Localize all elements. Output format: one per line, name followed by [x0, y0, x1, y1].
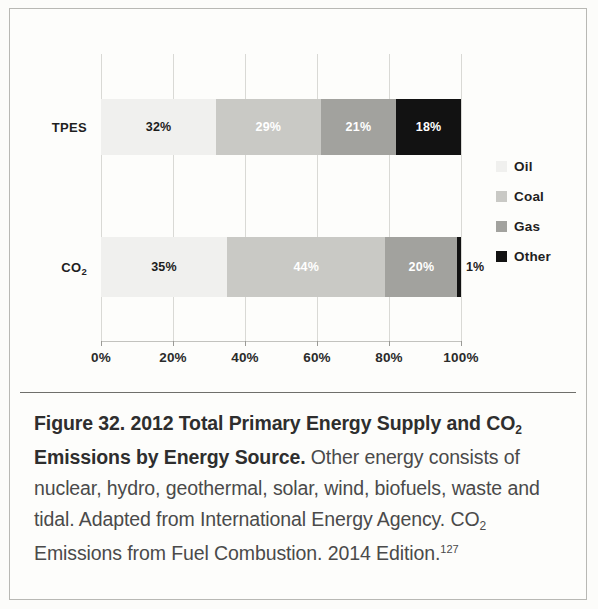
bar-label-tpes-coal: 29%: [216, 120, 320, 134]
x-tick-label-40: 40%: [215, 350, 275, 365]
legend-label-gas: Gas: [514, 219, 540, 234]
tick-mark-80: [389, 341, 390, 346]
legend-label-oil: Oil: [514, 159, 533, 174]
tick-mark-60: [317, 341, 318, 346]
bar-label-tpes-gas: 21%: [321, 120, 397, 134]
x-tick-label-100: 100%: [431, 350, 491, 365]
gridline-60: [317, 54, 318, 341]
legend-label-other: Other: [514, 249, 551, 264]
category-label-co2-text: CO: [61, 260, 81, 275]
legend-item-other[interactable]: Other: [496, 241, 580, 271]
caption-body-part2: Emissions from Fuel Combustion. 2014 Edi…: [34, 542, 440, 564]
legend-item-gas[interactable]: Gas: [496, 211, 580, 241]
tick-mark-40: [245, 341, 246, 346]
chart-legend: Oil Coal Gas Other: [496, 151, 580, 271]
bar-segment-co2-oil[interactable]: 35%: [101, 237, 227, 297]
bar-segment-co2-coal[interactable]: 44%: [227, 237, 385, 297]
gridline-0: [101, 54, 102, 341]
bar-segment-co2-gas[interactable]: 20%: [385, 237, 457, 297]
legend-item-coal[interactable]: Coal: [496, 181, 580, 211]
legend-swatch-other-icon: [496, 251, 507, 262]
caption-divider: [20, 392, 576, 393]
caption-bold-line2-rest: Emissions by Energy Source.: [34, 446, 305, 468]
bar-row-tpes: TPES 32% 29% 21% 18%: [101, 99, 461, 155]
gridline-40: [245, 54, 246, 341]
x-tick-label-0: 0%: [71, 350, 131, 365]
bar-label-tpes-other: 18%: [396, 120, 461, 134]
bar-label-co2-oil: 35%: [101, 260, 227, 274]
x-tick-label-60: 60%: [287, 350, 347, 365]
gridline-100: [461, 54, 462, 341]
plot-area: 0% 20% 40% 60% 80% 100% TPES 32% 29%: [101, 54, 461, 341]
gridline-80: [389, 54, 390, 341]
caption-footnote-marker: 127: [440, 543, 458, 555]
caption-bold-line1: Figure 32. 2012 Total Primary Energy Sup…: [34, 412, 481, 434]
gridline-20: [173, 54, 174, 341]
bar-segment-tpes-gas[interactable]: 21%: [321, 99, 397, 155]
x-tick-label-80: 80%: [359, 350, 419, 365]
figure-frame: 0% 20% 40% 60% 80% 100% TPES 32% 29%: [9, 8, 587, 600]
chart-panel: 0% 20% 40% 60% 80% 100% TPES 32% 29%: [10, 9, 586, 391]
figure-page: 0% 20% 40% 60% 80% 100% TPES 32% 29%: [0, 0, 598, 609]
x-axis-line: [101, 341, 462, 342]
figure-caption: Figure 32. 2012 Total Primary Energy Sup…: [34, 408, 559, 572]
tick-mark-0: [101, 341, 102, 346]
legend-swatch-coal-icon: [496, 191, 507, 202]
tick-mark-100: [461, 341, 462, 346]
legend-label-coal: Coal: [514, 189, 544, 204]
category-label-co2-subscript: 2: [81, 266, 87, 277]
bar-label-co2-gas: 20%: [385, 260, 457, 274]
bar-segment-tpes-coal[interactable]: 29%: [216, 99, 320, 155]
caption-bold-co2-subscript: 2: [515, 423, 522, 437]
legend-item-oil[interactable]: Oil: [496, 151, 580, 181]
caption-bold-co2-base: CO: [486, 412, 515, 434]
category-label-tpes: TPES: [7, 120, 87, 135]
bar-label-tpes-oil: 32%: [101, 120, 216, 134]
legend-swatch-oil-icon: [496, 161, 507, 172]
bar-label-co2-coal: 44%: [227, 260, 385, 274]
bar-segment-co2-other[interactable]: 1%: [457, 237, 461, 297]
category-label-tpes-text: TPES: [52, 120, 87, 135]
bar-segment-tpes-other[interactable]: 18%: [396, 99, 461, 155]
bar-label-co2-other: 1%: [461, 260, 484, 274]
tick-mark-20: [173, 341, 174, 346]
caption-body-co2-subscript: 2: [479, 519, 486, 533]
category-label-co2: CO2: [7, 260, 87, 275]
x-tick-label-20: 20%: [143, 350, 203, 365]
bar-segment-tpes-oil[interactable]: 32%: [101, 99, 216, 155]
bar-row-co2: CO2 35% 44% 20% 1%: [101, 237, 461, 297]
legend-swatch-gas-icon: [496, 221, 507, 232]
